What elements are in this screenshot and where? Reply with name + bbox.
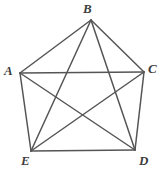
edge-E-A — [20, 73, 31, 151]
diagonal-C-E — [31, 72, 144, 151]
edge-D-E — [31, 150, 135, 151]
pentagon-figure-svg — [0, 0, 164, 173]
edge-B-C — [91, 20, 144, 72]
pentagon-diagonals-group — [20, 20, 144, 151]
vertex-label-b: B — [83, 2, 92, 15]
diagonal-A-C — [20, 72, 144, 73]
edge-C-D — [135, 72, 144, 150]
vertex-label-e: E — [21, 154, 30, 167]
diagonal-B-D — [91, 20, 135, 150]
vertex-label-a: A — [4, 64, 13, 77]
edge-A-B — [20, 20, 91, 73]
vertex-label-d: D — [139, 154, 148, 167]
pentagon-diagram: ABCDE — [0, 0, 164, 173]
vertex-label-c: C — [148, 62, 157, 75]
